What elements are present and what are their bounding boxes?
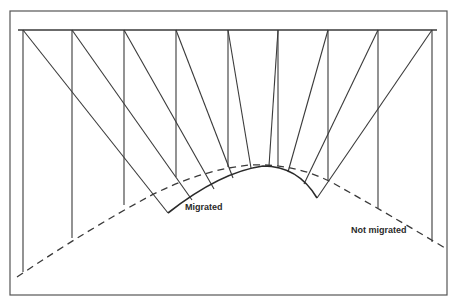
vertical-traces <box>23 30 432 272</box>
migrated-label: Migrated <box>185 202 223 212</box>
diagram-canvas <box>0 0 454 301</box>
not-migrated-curve <box>17 165 445 277</box>
not-migrated-label: Not migrated <box>351 225 407 235</box>
